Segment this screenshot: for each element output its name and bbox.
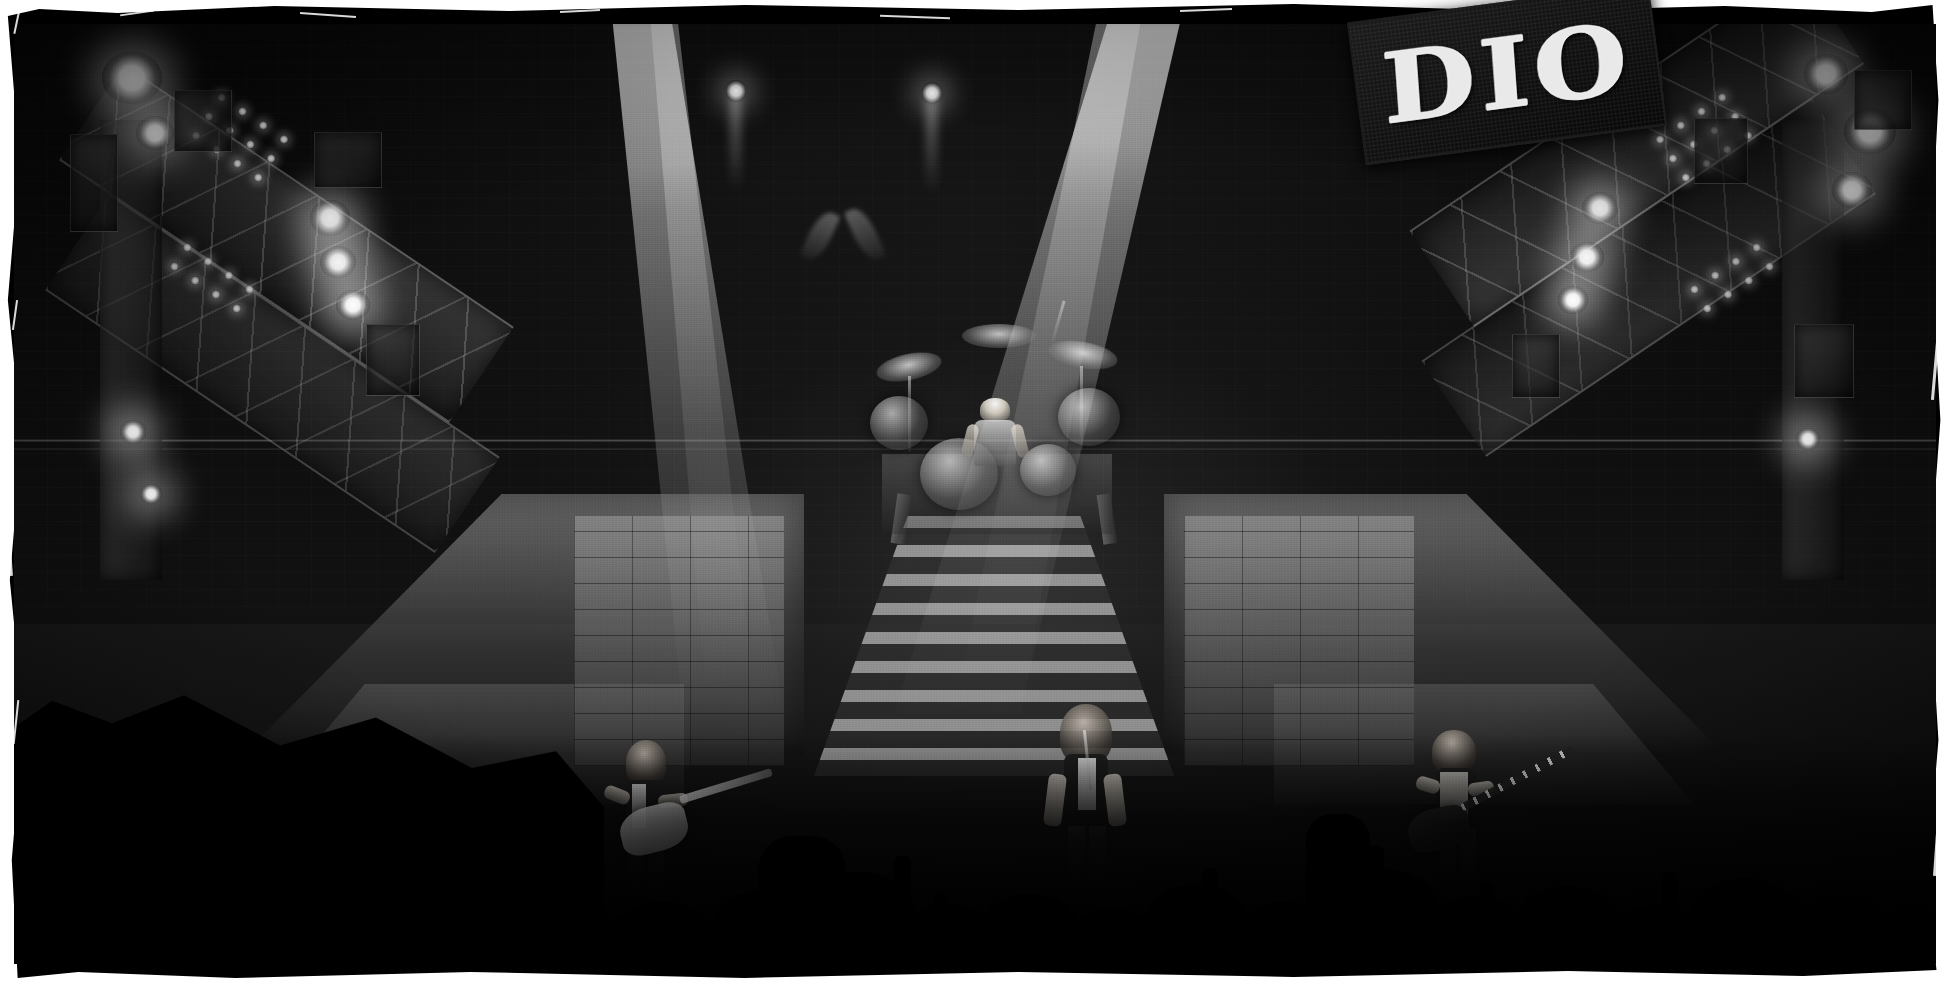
speaker-cabinet-right-2 bbox=[1694, 118, 1748, 184]
spot-lamp-left-6 bbox=[120, 420, 146, 444]
spot-lamp-left-1 bbox=[102, 52, 162, 104]
speaker-cabinet-right-3 bbox=[1794, 324, 1854, 398]
spot-lamp-right-4 bbox=[1582, 192, 1618, 224]
spot-lamp-left-5 bbox=[336, 290, 370, 320]
speaker-cabinet-right-1 bbox=[1854, 70, 1912, 130]
performer-drummer bbox=[966, 398, 1024, 478]
speaker-cabinet-left-1 bbox=[70, 134, 118, 232]
spot-lamp-right-3 bbox=[1832, 172, 1872, 208]
speaker-cabinet-left-2 bbox=[174, 90, 232, 152]
point-lamp-left bbox=[726, 80, 746, 102]
cymbal-center bbox=[962, 324, 1036, 348]
spot-lamp-left-4 bbox=[320, 246, 356, 278]
speaker-cabinet-left-4 bbox=[366, 324, 420, 396]
spot-lamp-right-1 bbox=[1804, 54, 1848, 94]
spot-lamp-right-6 bbox=[1558, 286, 1588, 314]
spot-lamp-left-7 bbox=[140, 484, 162, 504]
spot-lamp-right-5 bbox=[1570, 242, 1604, 272]
crowd-silhouette-center bbox=[758, 836, 846, 964]
speaker-cabinet-right-4 bbox=[1512, 334, 1560, 398]
stone-wall-left bbox=[574, 516, 784, 766]
stone-wall-right bbox=[1184, 516, 1414, 766]
film-scratch-8 bbox=[1938, 560, 1947, 620]
point-lamp-right bbox=[922, 82, 942, 104]
crowd-silhouette-tall bbox=[1306, 814, 1370, 964]
concert-photograph: DIO bbox=[0, 0, 1960, 1000]
photo-plate bbox=[14, 24, 1936, 964]
spot-lamp-left-3 bbox=[310, 200, 350, 236]
tom-right bbox=[1058, 388, 1120, 446]
film-scratch-2 bbox=[7, 120, 13, 160]
spot-lamp-right-7 bbox=[1796, 428, 1820, 450]
spot-lamp-left-2 bbox=[136, 116, 174, 150]
tom-left bbox=[870, 396, 928, 450]
dio-banner-text: DIO bbox=[1379, 10, 1634, 139]
speaker-cabinet-left-3 bbox=[314, 132, 382, 188]
